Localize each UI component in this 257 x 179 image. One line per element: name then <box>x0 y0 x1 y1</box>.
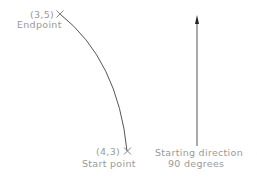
endpoint-label: Endpoint <box>17 19 62 30</box>
direction-degrees: 90 degrees <box>168 158 224 169</box>
arc-diagram: (3,5) Endpoint (4,3) Start point Startin… <box>0 0 257 179</box>
arrowhead-up-icon <box>195 15 199 24</box>
endpoint-coords: (3,5) <box>30 9 54 20</box>
start-point-coords: (4,3) <box>96 146 120 157</box>
direction-label: Starting direction <box>155 147 243 158</box>
endpoint-marker-icon <box>57 11 64 18</box>
start-point-marker-icon <box>124 148 131 155</box>
start-point-label: Start point <box>82 158 136 169</box>
arc-curve <box>60 14 127 151</box>
